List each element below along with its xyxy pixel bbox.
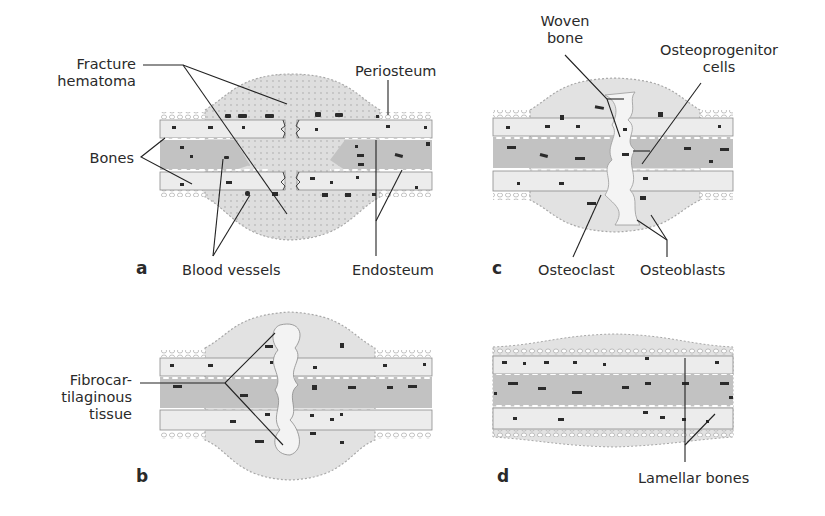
label-endosteum: Endosteum	[352, 262, 434, 279]
label-osteoclast: Osteoclast	[538, 262, 615, 279]
label-woven-bone-line2: bone	[528, 30, 602, 47]
label-lamellar-bones: Lamellar bones	[638, 470, 749, 487]
label-fracture-hematoma-line2: hematoma	[40, 73, 136, 90]
label-fracture-hematoma: Fracture hematoma	[40, 56, 136, 90]
label-woven-bone-line1: Woven	[528, 13, 602, 30]
label-osteoprogenitor-line1: Osteoprogenitor	[652, 42, 786, 59]
label-fracture-hematoma-line1: Fracture	[40, 56, 136, 73]
label-fibro-line1: Fibrocar-	[40, 372, 132, 389]
panel-letter-d: d	[497, 468, 509, 485]
panel-b-drawing	[140, 312, 432, 480]
panel-letter-c: c	[492, 260, 502, 277]
panel-c-drawing	[493, 55, 733, 257]
label-blood-vessels: Blood vessels	[182, 262, 281, 279]
label-woven-bone: Woven bone	[528, 13, 602, 47]
panel-letter-a: a	[136, 260, 147, 277]
panel-a-drawing	[141, 65, 432, 256]
panel-d-drawing	[493, 334, 733, 462]
label-bones: Bones	[70, 150, 134, 167]
panel-letter-b: b	[136, 468, 148, 485]
label-fibro-line3: tissue	[40, 406, 132, 423]
label-osteoprogenitor-line2: cells	[652, 59, 786, 76]
label-osteoprogenitor-cells: Osteoprogenitor cells	[652, 42, 786, 76]
label-fibrocartilaginous-tissue: Fibrocar- tilaginous tissue	[40, 372, 132, 423]
label-osteoblasts: Osteoblasts	[640, 262, 725, 279]
label-periosteum: Periosteum	[355, 63, 437, 80]
label-fibro-line2: tilaginous	[40, 389, 132, 406]
